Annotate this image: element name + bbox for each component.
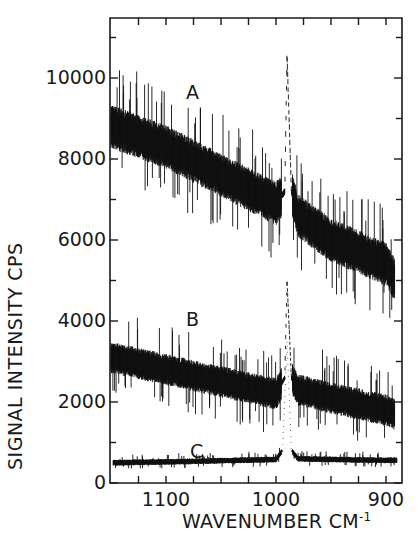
y-tick-label: 2000	[58, 390, 106, 412]
trace-b	[111, 282, 395, 441]
x-tick-label: 1100	[142, 488, 190, 510]
spectrum-traces	[111, 56, 397, 469]
series-label-c: C	[190, 440, 203, 462]
x-axis-label: WAVENUMBER CM-1	[182, 510, 371, 532]
y-tick-label: 8000	[58, 147, 106, 169]
x-axis-unit: CM	[329, 510, 359, 532]
y-tick-label: 10000	[46, 66, 106, 88]
series-label-a: A	[186, 81, 199, 103]
y-tick-label: 4000	[58, 309, 106, 331]
x-tick-label: 900	[368, 488, 404, 510]
x-axis-unit-exponent: -1	[359, 510, 372, 524]
series-label-b: B	[186, 308, 199, 330]
y-tick-label: 6000	[58, 228, 106, 250]
x-tick-label: 1000	[252, 488, 300, 510]
y-tick-label: 0	[94, 471, 106, 493]
trace-a	[111, 56, 395, 318]
y-axis-label: SIGNAL INTENSITY CPS	[4, 242, 26, 470]
x-axis-label-text: WAVENUMBER	[182, 510, 322, 532]
